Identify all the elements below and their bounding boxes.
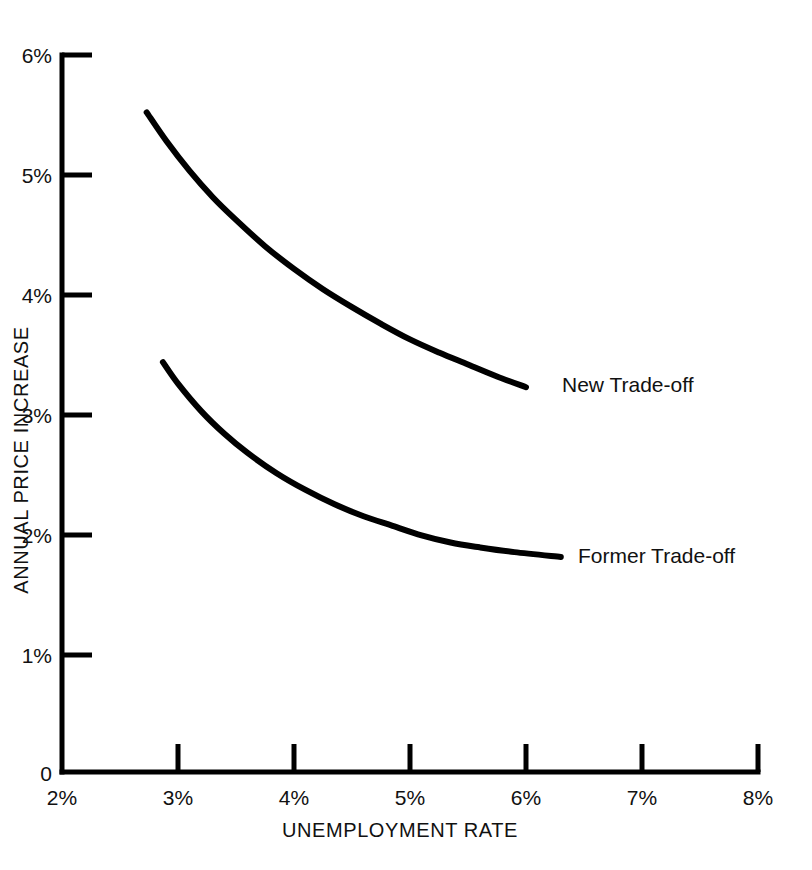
x-tick-label-3: 3% xyxy=(163,786,193,809)
y-tick-label-4: 4% xyxy=(22,284,52,307)
x-tick-label-5: 5% xyxy=(395,786,425,809)
phillips-curve-chart: 6% 5% 4% 3% 2% 1% 0 2% 3% 4% 5% 6% 7% 8%… xyxy=(0,0,812,870)
y-axis-title: ANNUAL PRICE INCREASE xyxy=(10,326,32,593)
y-tick-label-1: 1% xyxy=(22,644,52,667)
y-tick-label-0: 0 xyxy=(40,762,52,785)
y-tick-label-6: 6% xyxy=(22,44,52,67)
former-tradeoff-label: Former Trade-off xyxy=(578,544,735,567)
new-tradeoff-label: New Trade-off xyxy=(562,373,694,396)
x-axis-title: UNEMPLOYMENT RATE xyxy=(282,819,518,841)
x-tick-label-4: 4% xyxy=(279,786,309,809)
x-tick-label-2: 2% xyxy=(47,786,77,809)
x-tick-label-8: 8% xyxy=(743,786,773,809)
chart-background xyxy=(0,0,812,870)
x-tick-label-7: 7% xyxy=(627,786,657,809)
chart-container: 6% 5% 4% 3% 2% 1% 0 2% 3% 4% 5% 6% 7% 8%… xyxy=(0,0,812,870)
y-tick-label-5: 5% xyxy=(22,164,52,187)
x-tick-label-6: 6% xyxy=(511,786,541,809)
